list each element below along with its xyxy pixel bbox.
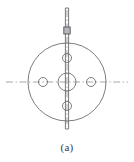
engineering-drawing — [0, 0, 134, 136]
figure-container: (a) — [0, 0, 134, 162]
shaft-collar — [64, 27, 70, 34]
figure-caption: (a) — [0, 136, 134, 162]
